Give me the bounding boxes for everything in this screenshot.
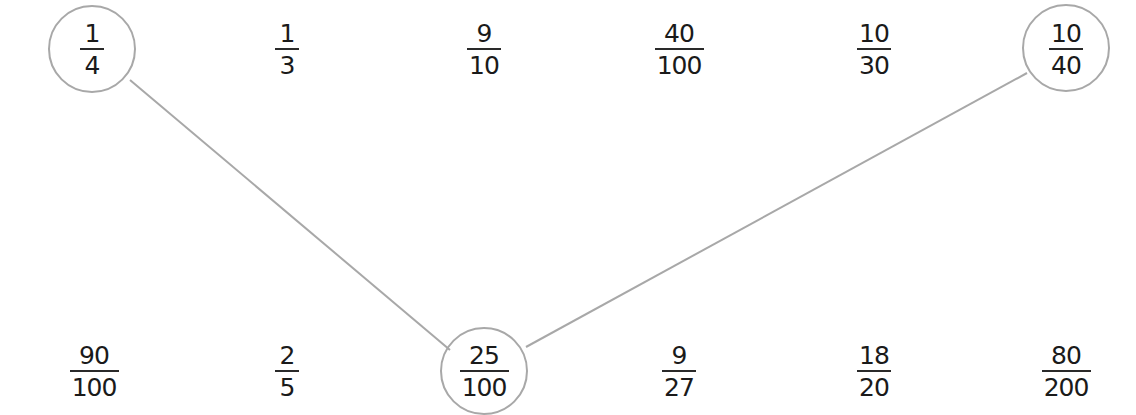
fraction-top-5[interactable]: 10 30 — [829, 20, 919, 79]
numerator: 90 — [79, 342, 109, 369]
fraction-bar — [662, 370, 696, 372]
numerator: 9 — [477, 20, 492, 47]
denominator: 20 — [859, 374, 889, 401]
denominator: 100 — [657, 52, 702, 79]
numerator: 2 — [280, 342, 295, 369]
numerator: 25 — [469, 342, 499, 369]
fraction-bottom-3[interactable]: 25 100 — [439, 342, 529, 401]
fraction-bar — [857, 48, 891, 50]
fraction-bar — [80, 48, 104, 50]
fraction-bottom-4[interactable]: 9 27 — [634, 342, 724, 401]
fraction-bar — [460, 370, 509, 372]
numerator: 10 — [1051, 20, 1081, 47]
fraction-bottom-2[interactable]: 2 5 — [242, 342, 332, 401]
denominator: 3 — [280, 52, 295, 79]
fraction-bar — [1049, 48, 1083, 50]
fraction-bar — [857, 370, 891, 372]
connector-1-4-to-25-100 — [130, 80, 450, 350]
denominator: 200 — [1044, 374, 1089, 401]
fraction-bottom-6[interactable]: 80 200 — [1021, 342, 1111, 401]
fraction-bar — [467, 48, 501, 50]
numerator: 10 — [859, 20, 889, 47]
fraction-bar — [70, 370, 119, 372]
denominator: 30 — [859, 52, 889, 79]
numerator: 18 — [859, 342, 889, 369]
fraction-top-1[interactable]: 1 4 — [47, 20, 137, 79]
denominator: 40 — [1051, 52, 1081, 79]
fraction-top-4[interactable]: 40 100 — [634, 20, 724, 79]
denominator: 27 — [664, 374, 694, 401]
fraction-top-2[interactable]: 1 3 — [242, 20, 332, 79]
fraction-top-6[interactable]: 10 40 — [1021, 20, 1111, 79]
fraction-top-3[interactable]: 9 10 — [439, 20, 529, 79]
fraction-bar — [275, 370, 299, 372]
fraction-bottom-1[interactable]: 90 100 — [49, 342, 139, 401]
numerator: 80 — [1051, 342, 1081, 369]
numerator: 1 — [85, 20, 100, 47]
denominator: 100 — [72, 374, 117, 401]
numerator: 9 — [672, 342, 687, 369]
denominator: 4 — [85, 52, 100, 79]
denominator: 100 — [462, 374, 507, 401]
fraction-bar — [275, 48, 299, 50]
fraction-bar — [1042, 370, 1091, 372]
numerator: 1 — [280, 20, 295, 47]
denominator: 10 — [469, 52, 499, 79]
numerator: 40 — [664, 20, 694, 47]
connector-10-40-to-25-100 — [526, 73, 1027, 347]
fraction-bar — [655, 48, 704, 50]
denominator: 5 — [280, 374, 295, 401]
fraction-bottom-5[interactable]: 18 20 — [829, 342, 919, 401]
